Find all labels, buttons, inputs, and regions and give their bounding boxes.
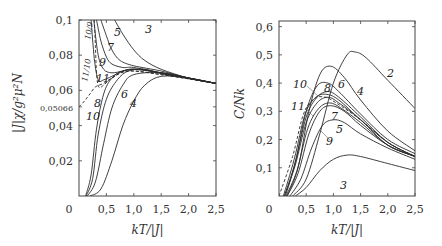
curve-label: 11 [96,72,110,85]
y-tick-label: 0,06 [49,84,74,97]
x-tick-label: 1,5 [152,203,170,216]
y-axis-label: |J|χ/g²μ²N [11,73,25,133]
y-tick-label: 0,08 [49,49,74,62]
y-axis-label: C/Nk [233,88,247,119]
y-tick-label: 0,1 [256,162,274,175]
curve-label: 5 [336,123,343,136]
curve-label: 5 [114,26,121,39]
curve-label: 8 [94,97,101,110]
y-tick-label: 0,1 [56,14,74,27]
curve-label: 3 [340,179,347,192]
y-tick-label: 0,4 [256,77,274,90]
curve-label: 11 [291,100,305,113]
curve-label: 8 [324,82,331,95]
curve-label: 7 [331,110,338,123]
y-tick-label: 0,5 [256,49,274,62]
x-tick-label: 2,0 [180,203,198,216]
curve-label: 10 [293,78,307,91]
curve-6 [87,73,216,196]
curve-label: 9 [99,56,106,69]
x-tick-label: 1,0 [325,203,343,216]
curve-label: 6 [338,78,345,91]
y-tick-label: 0,3 [256,105,274,118]
heat-capacity-plot: 0,51,01,52,02,500,60,50,40,30,20,1kT/|J|… [233,21,424,237]
y-tick-label: 0,2 [256,134,274,147]
y-tick-label: 0,04 [49,120,74,133]
curve-label: 7 [107,41,114,54]
x-tick-label: 0,5 [297,203,315,216]
y-tick-label: 0,6 [256,21,274,34]
figure: 0,51,01,52,02,500,10,080,060,050660,040,… [0,0,442,246]
curve-label: 11/10 [80,58,93,82]
curve-7 [287,106,415,196]
origin-label: 0 [66,203,73,216]
x-tick-label: 2,5 [207,203,225,216]
origin-label: 0 [266,203,273,216]
curves [279,51,415,196]
y-tick-label: 0,02 [49,155,74,168]
x-tick-label: 0,5 [98,203,116,216]
curve-label: 6 [121,88,128,101]
curve-3 [295,155,415,196]
y-tick-label: 0,05066 [40,104,73,113]
curve-label: 10/9 [83,21,95,40]
curve-label: 4 [129,97,137,110]
curve-2 [293,51,415,196]
x-tick-label: 2,5 [406,203,424,216]
curve-label: 10 [86,110,100,123]
curve-label: 2 [386,67,394,80]
x-tick-label: 1,0 [125,203,143,216]
x-tick-label: 2,0 [379,203,397,216]
x-axis-label: kT/|J| [331,223,363,237]
curve-label: 4 [356,85,364,98]
curve-label: 3 [145,23,152,36]
x-tick-label: 1,5 [352,203,370,216]
susceptibility-plot: 0,51,01,52,02,500,10,080,060,050660,040,… [11,14,225,237]
x-axis-label: kT/|J| [131,223,163,237]
curve-10 [86,69,216,196]
